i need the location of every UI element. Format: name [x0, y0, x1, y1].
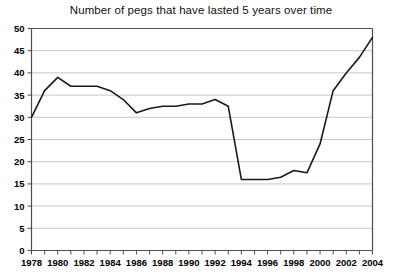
svg-text:1980: 1980 — [47, 257, 68, 268]
svg-text:1990: 1990 — [178, 257, 199, 268]
svg-text:45: 45 — [14, 45, 25, 56]
x-axis-labels: 1978198019821984198619881990199219941996… — [21, 257, 384, 268]
svg-text:1994: 1994 — [231, 257, 253, 268]
svg-text:10: 10 — [14, 201, 25, 212]
svg-text:20: 20 — [14, 156, 25, 167]
svg-text:1978: 1978 — [21, 257, 42, 268]
svg-text:15: 15 — [14, 178, 25, 189]
svg-text:1986: 1986 — [126, 257, 147, 268]
svg-text:50: 50 — [14, 23, 25, 34]
svg-text:5: 5 — [19, 223, 25, 234]
data-series-line — [32, 37, 373, 179]
svg-text:35: 35 — [14, 90, 25, 101]
chart-container: Number of pegs that have lasted 5 years … — [0, 0, 402, 276]
svg-text:1988: 1988 — [152, 257, 173, 268]
y-axis-labels: 05101520253035404550 — [14, 23, 25, 256]
svg-text:2002: 2002 — [336, 257, 357, 268]
svg-text:40: 40 — [14, 67, 25, 78]
svg-text:1996: 1996 — [257, 257, 278, 268]
x-axis-ticks — [32, 251, 373, 255]
line-chart-plot: 05101520253035404550 1978198019821984198… — [0, 0, 402, 276]
svg-text:1998: 1998 — [283, 257, 304, 268]
svg-text:2000: 2000 — [309, 257, 330, 268]
svg-text:30: 30 — [14, 112, 25, 123]
svg-text:1984: 1984 — [100, 257, 122, 268]
svg-text:1982: 1982 — [73, 257, 94, 268]
svg-text:2004: 2004 — [362, 257, 384, 268]
svg-text:25: 25 — [14, 134, 25, 145]
svg-text:1992: 1992 — [205, 257, 226, 268]
svg-text:0: 0 — [19, 245, 24, 256]
